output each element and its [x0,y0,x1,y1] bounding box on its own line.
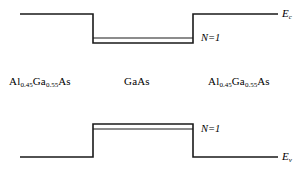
barrier-left-mid: Ga [33,75,46,87]
material-label-barrier-left: Al0.45Ga0.55As [9,76,71,87]
valence-n1-level-label: N=1 [201,124,220,135]
ev-symbol: E [282,150,289,162]
ec-subscript: c [289,13,292,21]
barrier-right-sub1: 0.45 [219,81,231,89]
barrier-left-sub2: 0.55 [46,81,58,89]
barrier-left-sub1: 0.45 [20,81,32,89]
material-label-barrier-right: Al0.45Ga0.55As [208,76,270,87]
barrier-right-sub2: 0.55 [245,81,257,89]
barrier-right-prefix: Al [208,75,219,87]
valence-band-group [20,124,278,157]
band-diagram-figure: Al0.45Ga0.55As GaAs Al0.45Ga0.55As N=1 N… [0,0,299,177]
ec-symbol: E [282,7,289,19]
conduction-n1-level-label: N=1 [201,33,220,44]
valence-band-edge-label: Ev [282,151,292,162]
barrier-right-suffix: As [257,75,270,87]
barrier-left-suffix: As [58,75,71,87]
conduction-band-group [20,14,278,43]
conduction-band-edge-line [20,14,278,43]
ev-subscript: v [289,156,292,164]
barrier-left-prefix: Al [9,75,20,87]
conduction-band-edge-label: Ec [282,8,292,19]
barrier-right-mid: Ga [232,75,245,87]
material-label-well: GaAs [124,76,150,87]
